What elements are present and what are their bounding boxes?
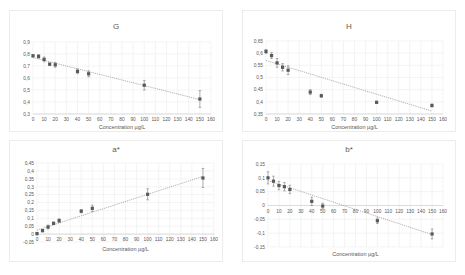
x-tick-label: 40 — [309, 209, 315, 214]
x-axis-title: Concentration µg/L — [332, 251, 379, 257]
x-tick-label: 120 — [395, 117, 403, 122]
data-point — [430, 229, 433, 239]
x-axis-title: Concentration µg/L — [99, 124, 146, 130]
x-tick-label: 40 — [75, 117, 81, 122]
chart-plot: 0,30,40,50,60,70,80,90102030405060708090… — [10, 11, 224, 133]
chart-plot: 0,350,40,450,50,550,60,65010203040506070… — [243, 11, 457, 133]
x-tick-label: 70 — [112, 237, 118, 242]
y-tick-label: 0,35 — [25, 177, 35, 182]
x-tick-label: 10 — [276, 209, 282, 214]
y-tick-label: 0,55 — [254, 63, 264, 68]
x-tick-label: 100 — [140, 117, 148, 122]
x-tick-label: 40 — [79, 237, 85, 242]
data-point — [309, 90, 312, 95]
y-tick-label: 0,1 — [27, 216, 34, 221]
y-tick-label: 0,35 — [254, 112, 264, 117]
x-tick-label: 60 — [101, 237, 107, 242]
x-tick-label: 70 — [341, 117, 347, 122]
data-point — [281, 64, 284, 71]
y-tick-label: 0,9 — [23, 40, 30, 45]
y-tick-label: 0,3 — [23, 112, 30, 117]
y-tick-label: 0,4 — [256, 100, 263, 105]
data-point — [266, 172, 269, 184]
x-tick-label: 70 — [342, 209, 348, 214]
x-tick-label: 100 — [373, 117, 381, 122]
chart-plot: -0,15-0,1-0,0500,050,10,1501020304050607… — [243, 141, 457, 263]
data-point — [277, 181, 280, 189]
y-tick-label: 0,45 — [25, 161, 35, 166]
y-tick-label: 0,05 — [25, 224, 35, 229]
x-tick-label: 40 — [308, 117, 314, 122]
x-tick-label: 110 — [152, 117, 160, 122]
data-point — [376, 218, 379, 224]
x-tick-label: 50 — [86, 117, 92, 122]
x-tick-label: 10 — [41, 117, 47, 122]
x-tick-label: 70 — [108, 117, 114, 122]
x-tick-label: 10 — [45, 237, 51, 242]
x-tick-label: 140 — [417, 117, 425, 122]
data-point — [80, 210, 83, 213]
x-tick-label: 20 — [56, 237, 62, 242]
y-tick-label: 0,05 — [256, 189, 266, 194]
y-tick-label: 0,65 — [254, 39, 264, 44]
x-tick-label: 30 — [297, 117, 303, 122]
x-tick-label: 50 — [320, 209, 326, 214]
data-point — [310, 197, 313, 205]
data-point — [48, 63, 51, 66]
x-tick-label: 110 — [155, 237, 163, 242]
data-point — [288, 185, 291, 193]
data-point — [320, 94, 323, 97]
x-tick-label: 10 — [274, 117, 280, 122]
chart-panel-a-star: a* -0,0500,050,10,150,20,250,30,350,40,4… — [9, 140, 223, 262]
x-tick-label: 20 — [287, 209, 293, 214]
x-tick-label: 100 — [373, 209, 381, 214]
data-point — [375, 101, 378, 104]
x-tick-label: 60 — [330, 117, 336, 122]
y-tick-label: 0,4 — [27, 169, 34, 174]
data-point — [31, 54, 34, 57]
y-tick-label: 0,5 — [256, 75, 263, 80]
trendline — [33, 58, 200, 100]
x-tick-label: 30 — [68, 237, 74, 242]
x-tick-label: 110 — [384, 209, 392, 214]
chart-panel-h: H 0,350,40,450,50,550,60,650102030405060… — [242, 10, 456, 132]
y-tick-label: 0,7 — [23, 64, 30, 69]
x-tick-label: 150 — [428, 117, 436, 122]
x-tick-label: 150 — [196, 117, 204, 122]
y-tick-label: 0,8 — [23, 52, 30, 57]
x-tick-label: 80 — [119, 117, 125, 122]
chart-panel-g: G 0,30,40,50,60,70,80,901020304050607080… — [9, 10, 223, 132]
y-tick-label: 0,6 — [256, 51, 263, 56]
x-tick-label: 130 — [406, 209, 414, 214]
x-tick-label: 50 — [319, 117, 325, 122]
y-tick-label: 0,1 — [258, 176, 265, 181]
x-tick-label: 60 — [331, 209, 337, 214]
x-tick-label: 0 — [32, 117, 35, 122]
x-tick-label: 50 — [90, 237, 96, 242]
x-axis-title: Concentration µg/L — [331, 124, 378, 130]
x-tick-label: 90 — [134, 237, 140, 242]
x-tick-label: 20 — [53, 117, 59, 122]
x-tick-label: 100 — [144, 237, 152, 242]
x-tick-label: 140 — [188, 237, 196, 242]
y-tick-label: -0,05 — [23, 240, 34, 245]
data-point — [46, 225, 49, 229]
x-tick-label: 110 — [384, 117, 392, 122]
x-tick-label: 80 — [352, 117, 358, 122]
y-tick-label: 0,15 — [256, 162, 266, 167]
x-tick-label: 60 — [97, 117, 103, 122]
x-tick-label: 80 — [353, 209, 359, 214]
data-point — [52, 222, 55, 225]
x-tick-label: 120 — [395, 209, 403, 214]
x-tick-label: 120 — [162, 117, 170, 122]
trendline — [37, 176, 203, 230]
x-tick-label: 160 — [439, 209, 447, 214]
data-point — [430, 104, 433, 107]
y-tick-label: 0 — [31, 232, 34, 237]
y-tick-label: 0,2 — [27, 200, 34, 205]
data-point — [37, 55, 40, 59]
y-tick-label: 0,3 — [27, 185, 34, 190]
x-tick-label: 0 — [267, 209, 270, 214]
data-point — [76, 69, 79, 74]
x-tick-label: 80 — [123, 237, 129, 242]
